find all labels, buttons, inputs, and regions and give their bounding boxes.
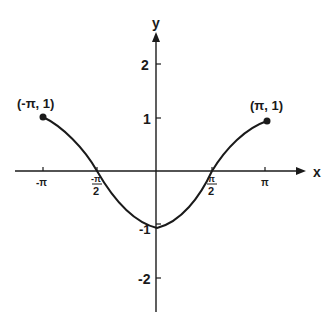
y-axis: y (152, 15, 160, 312)
y-axis-label: y (152, 15, 160, 31)
endpoint-left-dot (40, 114, 47, 121)
x-tick-label-pi-half-den: 2 (208, 185, 214, 197)
y-tick-label-2: 2 (141, 57, 149, 73)
function-graph: x y -π -π 2 π 2 π 2 1 -1 -2 (-π, 1) (π, … (0, 0, 325, 312)
point-label-left: (-π, 1) (17, 96, 54, 111)
x-axis-arrow-icon (296, 167, 306, 175)
x-tick-label-pi: π (261, 177, 269, 188)
point-label-right: (π, 1) (250, 98, 283, 113)
x-tick-label-neg-pi-half-den: 2 (93, 185, 99, 197)
x-tick-label-neg-pi: -π (36, 177, 47, 188)
x-axis-label: x (313, 164, 321, 180)
x-axis: x (15, 164, 321, 180)
y-tick-label-1: 1 (143, 111, 151, 127)
endpoint-right-dot (264, 118, 271, 125)
y-axis-arrow-icon (152, 32, 160, 42)
y-tick-label-neg2: -2 (138, 271, 151, 287)
function-curve (43, 117, 267, 228)
